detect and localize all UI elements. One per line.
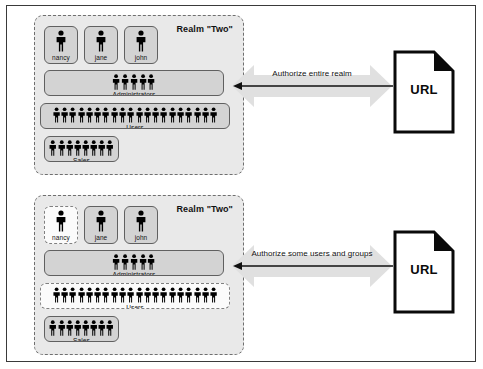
person-figure-icon bbox=[74, 140, 82, 156]
group-box-sales[interactable]: Sales bbox=[44, 316, 119, 342]
person-figure-icon bbox=[147, 254, 155, 270]
person-figure-icon bbox=[130, 254, 138, 270]
person-figure-icon bbox=[202, 287, 209, 303]
person-figure-icon bbox=[210, 287, 217, 303]
person-figure-icon bbox=[194, 107, 201, 123]
person-figures bbox=[56, 30, 66, 52]
group-box-users[interactable]: Users bbox=[40, 283, 230, 309]
person-figure-icon bbox=[111, 287, 118, 303]
person-figure-icon bbox=[82, 140, 90, 156]
person-figure-icon bbox=[61, 107, 68, 123]
person-figure-icon bbox=[136, 210, 146, 232]
user-label: nancy bbox=[52, 234, 70, 242]
user-box-john[interactable]: john bbox=[124, 26, 158, 64]
user-box-nancy[interactable]: nancy bbox=[44, 206, 78, 244]
person-figure-icon bbox=[98, 320, 106, 336]
person-figure-icon bbox=[106, 140, 114, 156]
person-figure-icon bbox=[202, 107, 209, 123]
group-box-sales[interactable]: Sales bbox=[44, 136, 119, 162]
person-figure-icon bbox=[66, 140, 74, 156]
person-figure-icon bbox=[112, 74, 120, 90]
person-figure-icon bbox=[102, 287, 109, 303]
realm-title: Realm "Two" bbox=[177, 24, 233, 34]
user-label: john bbox=[135, 54, 148, 62]
person-figure-icon bbox=[185, 287, 192, 303]
person-figure-icon bbox=[177, 287, 184, 303]
authorize-arrow-line bbox=[233, 79, 393, 93]
group-figures bbox=[112, 74, 155, 90]
person-figure-icon bbox=[53, 107, 60, 123]
person-figure-icon bbox=[69, 287, 76, 303]
person-figure-icon bbox=[112, 254, 120, 270]
person-figure-icon bbox=[86, 107, 93, 123]
person-figure-icon bbox=[96, 30, 106, 52]
person-figure-icon bbox=[58, 320, 66, 336]
group-figures bbox=[53, 287, 218, 303]
person-figure-icon bbox=[90, 140, 98, 156]
person-figure-icon bbox=[66, 320, 74, 336]
group-box-administrators[interactable]: Administrators bbox=[44, 250, 224, 276]
person-figure-icon bbox=[210, 107, 217, 123]
person-figure-icon bbox=[144, 287, 151, 303]
person-figure-icon bbox=[139, 74, 147, 90]
person-figure-icon bbox=[127, 107, 134, 123]
group-label: Administrators bbox=[113, 271, 156, 276]
group-label: Users bbox=[126, 124, 143, 129]
person-figure-icon bbox=[147, 74, 155, 90]
person-figure-icon bbox=[58, 140, 66, 156]
person-figure-icon bbox=[139, 254, 147, 270]
group-box-administrators[interactable]: Administrators bbox=[44, 70, 224, 96]
person-figure-icon bbox=[177, 107, 184, 123]
authorization-panel-entire-realm: Realm "Two" nancy jane john Administrato… bbox=[7, 6, 475, 184]
user-label: jane bbox=[95, 54, 108, 62]
person-figure-icon bbox=[185, 107, 192, 123]
group-box-users[interactable]: Users bbox=[40, 103, 230, 129]
person-figure-icon bbox=[136, 107, 143, 123]
group-figures bbox=[49, 140, 113, 156]
group-figures bbox=[112, 254, 155, 270]
person-figure-icon bbox=[119, 287, 126, 303]
person-figure-icon bbox=[94, 287, 101, 303]
authorization-panel-some-users: Realm "Two" nancy jane john Administrato… bbox=[7, 186, 475, 364]
group-label: Sales bbox=[73, 157, 90, 162]
person-figure-icon bbox=[78, 287, 85, 303]
group-label: Sales bbox=[73, 337, 90, 342]
diagram-frame: Realm "Two" nancy jane john Administrato… bbox=[6, 5, 476, 362]
person-figure-icon bbox=[74, 320, 82, 336]
group-label: Users bbox=[126, 304, 143, 309]
user-box-nancy[interactable]: nancy bbox=[44, 26, 78, 64]
user-label: nancy bbox=[52, 54, 70, 62]
person-figure-icon bbox=[82, 320, 90, 336]
url-document-label: URL bbox=[393, 262, 455, 277]
person-figures bbox=[56, 210, 66, 232]
realm-title: Realm "Two" bbox=[177, 204, 233, 214]
person-figure-icon bbox=[130, 74, 138, 90]
person-figure-icon bbox=[127, 287, 134, 303]
person-figure-icon bbox=[96, 210, 106, 232]
person-figure-icon bbox=[102, 107, 109, 123]
person-figure-icon bbox=[136, 30, 146, 52]
person-figure-icon bbox=[119, 107, 126, 123]
user-box-jane[interactable]: jane bbox=[84, 26, 118, 64]
person-figure-icon bbox=[49, 320, 57, 336]
group-figures bbox=[53, 107, 218, 123]
group-label: Administrators bbox=[113, 91, 156, 96]
person-figures bbox=[96, 210, 106, 232]
person-figure-icon bbox=[144, 107, 151, 123]
user-box-john[interactable]: john bbox=[124, 206, 158, 244]
person-figure-icon bbox=[61, 287, 68, 303]
person-figure-icon bbox=[152, 107, 159, 123]
user-label: jane bbox=[95, 234, 108, 242]
person-figure-icon bbox=[136, 287, 143, 303]
person-figures bbox=[136, 30, 146, 52]
person-figure-icon bbox=[106, 320, 114, 336]
person-figures bbox=[136, 210, 146, 232]
realm-container: Realm "Two" nancy jane john Administrato… bbox=[34, 15, 244, 175]
person-figure-icon bbox=[53, 287, 60, 303]
user-label: john bbox=[135, 234, 148, 242]
person-figure-icon bbox=[194, 287, 201, 303]
user-box-jane[interactable]: jane bbox=[84, 206, 118, 244]
person-figure-icon bbox=[56, 210, 66, 232]
person-figure-icon bbox=[69, 107, 76, 123]
person-figures bbox=[96, 30, 106, 52]
